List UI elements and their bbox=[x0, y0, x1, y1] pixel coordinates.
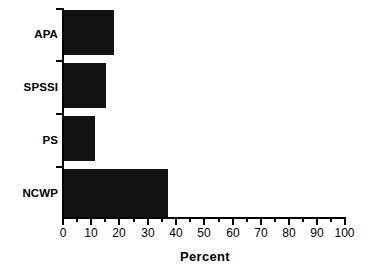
y-axis-tick bbox=[56, 113, 63, 115]
x-axis-minor-tick bbox=[274, 218, 276, 222]
category-label-ps: PS bbox=[42, 135, 58, 147]
x-axis-major-tick bbox=[118, 218, 120, 225]
category-label-apa: APA bbox=[34, 29, 58, 41]
category-label-spssi: SPSSI bbox=[24, 82, 58, 94]
bar-ncwp bbox=[64, 169, 168, 217]
x-axis-tick-label: 90 bbox=[303, 227, 331, 239]
x-axis-minor-tick bbox=[76, 218, 78, 222]
x-axis-tick-label: 0 bbox=[49, 227, 77, 239]
x-axis-tick-label: 60 bbox=[219, 227, 247, 239]
x-axis-major-tick bbox=[288, 218, 290, 225]
x-axis-major-tick bbox=[260, 218, 262, 225]
x-axis-title-wrapper: Percent bbox=[0, 249, 372, 264]
x-axis-minor-tick bbox=[330, 218, 332, 222]
bar-ps bbox=[64, 116, 95, 161]
category-label-ncwp: NCWP bbox=[22, 188, 58, 200]
y-axis-tick bbox=[56, 166, 63, 168]
x-axis-tick-label: 80 bbox=[275, 227, 303, 239]
y-axis-tick bbox=[56, 60, 63, 62]
x-axis-tick-label: 100 bbox=[330, 227, 359, 239]
x-axis-minor-tick bbox=[161, 218, 163, 222]
x-axis-major-tick bbox=[62, 218, 64, 225]
y-axis-tick bbox=[56, 8, 63, 10]
x-axis-major-tick bbox=[203, 218, 205, 225]
x-axis-tick-label: 30 bbox=[134, 227, 162, 239]
bar-chart: APA SPSSI PS NCWP 0 10 20 30 40 50 60 70… bbox=[0, 0, 372, 272]
x-axis-tick-label: 50 bbox=[190, 227, 218, 239]
x-axis-tick-label: 70 bbox=[247, 227, 275, 239]
bar-apa bbox=[64, 10, 114, 55]
x-axis-major-tick bbox=[344, 218, 346, 225]
x-axis-minor-tick bbox=[133, 218, 135, 222]
x-axis-minor-tick bbox=[246, 218, 248, 222]
x-axis-major-tick bbox=[147, 218, 149, 225]
x-axis-major-tick bbox=[232, 218, 234, 225]
bar-spssi bbox=[64, 63, 106, 108]
x-axis-minor-tick bbox=[218, 218, 220, 222]
category-axis-labels: APA SPSSI PS NCWP bbox=[0, 0, 58, 218]
x-axis-major-tick bbox=[90, 218, 92, 225]
x-axis-minor-tick bbox=[189, 218, 191, 222]
x-axis-tick-label: 10 bbox=[77, 227, 105, 239]
x-axis-major-tick bbox=[316, 218, 318, 225]
x-axis-title: Percent bbox=[180, 249, 230, 264]
x-axis-tick-label: 40 bbox=[162, 227, 190, 239]
x-axis-tick-label: 20 bbox=[105, 227, 133, 239]
x-axis-minor-tick bbox=[302, 218, 304, 222]
x-axis-major-tick bbox=[175, 218, 177, 225]
x-axis-minor-tick bbox=[104, 218, 106, 222]
